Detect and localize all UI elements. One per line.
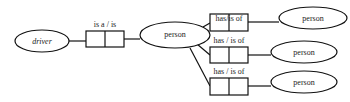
diagram-canvas: driver is a / is person has/is of has / … xyxy=(0,0,350,102)
relation-has-bot[interactable]: has / is of xyxy=(210,67,248,95)
entity-person-top-label: person xyxy=(302,14,323,23)
edge-person-top xyxy=(203,23,210,27)
entity-person-mid[interactable]: person xyxy=(271,41,337,63)
relation-has-top-label: has/is of xyxy=(216,14,243,23)
relation-is-a-label: is a / is xyxy=(94,20,116,29)
entity-person-bot-label: person xyxy=(293,78,314,87)
entity-person-center[interactable]: person xyxy=(140,22,210,48)
entity-driver-label: driver xyxy=(32,37,52,46)
relation-has-bot-label: has / is of xyxy=(214,67,245,76)
relation-has-mid-label: has / is of xyxy=(214,36,245,45)
entity-person-bot[interactable]: person xyxy=(271,71,337,93)
entity-person-mid-label: person xyxy=(293,48,314,57)
relation-has-mid[interactable]: has / is of xyxy=(210,36,248,63)
entity-person-top[interactable]: person xyxy=(279,7,347,29)
entity-driver[interactable]: driver xyxy=(15,30,69,52)
entity-person-center-label: person xyxy=(164,30,185,39)
edge-person-mid xyxy=(197,44,210,55)
relation-is-a[interactable]: is a / is xyxy=(86,20,124,47)
relation-has-top[interactable]: has/is of xyxy=(210,14,248,31)
edge-person-bot xyxy=(190,48,210,86)
